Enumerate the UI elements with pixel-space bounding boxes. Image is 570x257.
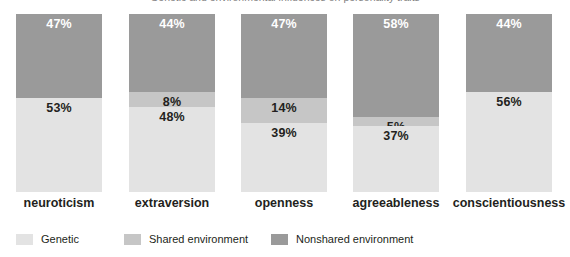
bar-stack: 44% 8% 48% — [129, 14, 215, 192]
segment-value-label: 56% — [496, 92, 521, 109]
segment-value-label: 44% — [496, 14, 521, 31]
bar-segment-genetic: 56% — [466, 92, 552, 192]
bar-segment-genetic: 37% — [353, 126, 439, 192]
legend-item-shared-environment: Shared environment — [124, 231, 248, 247]
bar-column-agreeableness: 58% 5% 37% — [353, 14, 439, 192]
legend-label: Nonshared environment — [296, 234, 413, 245]
bar-stack: 47% 14% 39% — [241, 14, 327, 192]
bar-segment-shared: 5% — [353, 117, 439, 126]
bar-segment-nonshared: 58% — [353, 14, 439, 117]
segment-value-label: 47% — [271, 14, 296, 31]
bar-stack: 44% 56% — [466, 14, 552, 192]
segment-value-label: 39% — [271, 123, 296, 140]
bar-segment-nonshared: 47% — [241, 14, 327, 98]
bar-column-conscientiousness: 44% 56% — [466, 14, 552, 192]
legend-swatch-icon — [271, 234, 288, 245]
bar-stack: 47% 53% — [16, 14, 102, 192]
segment-value-label: 53% — [46, 98, 71, 115]
plot-area: 47% 53% 44% 8% 48% 47% — [0, 14, 570, 192]
bar-column-extraversion: 44% 8% 48% — [129, 14, 215, 192]
bar-segment-nonshared: 47% — [16, 14, 102, 98]
bar-column-openness: 47% 14% 39% — [241, 14, 327, 192]
legend-swatch-icon — [124, 234, 141, 245]
legend-label: Shared environment — [149, 234, 248, 245]
bar-segment-genetic: 39% — [241, 123, 327, 192]
legend-item-nonshared-environment: Nonshared environment — [271, 231, 413, 247]
bar-segment-genetic: 48% — [129, 107, 215, 192]
segment-value-label: 14% — [271, 98, 296, 115]
legend-swatch-icon — [16, 234, 33, 245]
segment-value-label: 58% — [383, 14, 408, 31]
bar-segment-nonshared: 44% — [466, 14, 552, 92]
chart-legend: Genetic Shared environment Nonshared env… — [0, 231, 570, 249]
bar-segment-nonshared: 44% — [129, 14, 215, 92]
bar-segment-shared: 8% — [129, 92, 215, 106]
segment-value-label: 48% — [159, 107, 184, 124]
chart-title: Genetic and environmental influences on … — [0, 0, 570, 5]
bar-stack: 58% 5% 37% — [353, 14, 439, 192]
category-axis-labels: neuroticism extraversion openness agreea… — [0, 196, 570, 216]
category-label-conscientiousness: conscientiousness — [439, 196, 570, 210]
segment-value-label: 47% — [46, 14, 71, 31]
segment-value-label: 44% — [159, 14, 184, 31]
bar-segment-shared: 14% — [241, 98, 327, 123]
bar-segment-genetic: 53% — [16, 98, 102, 192]
legend-item-genetic: Genetic — [16, 231, 79, 247]
legend-label: Genetic — [41, 234, 79, 245]
segment-value-label: 37% — [383, 126, 408, 143]
bar-column-neuroticism: 47% 53% — [16, 14, 102, 192]
